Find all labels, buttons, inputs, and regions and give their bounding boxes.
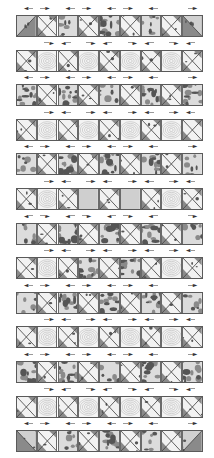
quilt-block-hourglass <box>161 223 182 245</box>
quilt-block-swirl <box>161 119 182 141</box>
arrow-left-icon: ◄ <box>101 39 113 47</box>
quilt-row-2 <box>16 50 203 72</box>
quilt-block-print <box>16 292 37 314</box>
arrow-left-icon: ◄ <box>143 108 155 116</box>
quilt-block-print <box>182 223 203 245</box>
arrow-left-icon: ◄ <box>185 315 197 323</box>
quilt-block-swirl <box>37 50 58 72</box>
arrow-right-icon: ► <box>168 177 180 185</box>
arrow-right-icon: ► <box>81 142 93 150</box>
arrow-left-icon: ◄ <box>60 108 72 116</box>
arrow-right-icon: ► <box>81 4 93 12</box>
quilt-block-solid <box>120 188 141 210</box>
arrow-right-icon: ► <box>122 4 134 12</box>
arrow-right-icon: ► <box>85 177 97 185</box>
arrow-left-icon: ◄ <box>101 177 113 185</box>
arrow-left-icon: ◄ <box>143 315 155 323</box>
arrow-left-icon: ◄ <box>22 281 34 289</box>
arrow-right-icon: ► <box>43 39 55 47</box>
quilt-block-print-dark <box>99 15 120 37</box>
quilt-block-corner-right-bottom <box>182 430 203 452</box>
arrow-left-icon: ◄ <box>185 246 197 254</box>
arrow-right-icon: ► <box>85 315 97 323</box>
arrow-left-icon: ◄ <box>147 73 159 81</box>
arrow-right-icon: ► <box>187 142 199 150</box>
quilt-block-print <box>99 361 120 383</box>
quilt-block-swirl <box>37 119 58 141</box>
quilt-block-print-dark <box>58 84 79 106</box>
arrow-right-icon: ► <box>85 246 97 254</box>
quilt-block-hourglass <box>120 153 141 175</box>
quilt-block-print <box>141 15 162 37</box>
arrow-left-icon: ◄ <box>22 419 34 427</box>
pressing-arrows-row-9: ◄►◄►◄►◄► <box>16 281 203 289</box>
quilt-block-hourglass <box>161 15 182 37</box>
quilt-block-print-dark <box>99 430 120 452</box>
quilt-block-swirl <box>78 396 99 418</box>
quilt-block-print <box>182 153 203 175</box>
quilt-block-swirl <box>161 396 182 418</box>
quilt-block-hourglass <box>120 223 141 245</box>
quilt-block-hourglass <box>16 326 37 348</box>
quilt-block-print-dark <box>120 257 141 279</box>
arrow-right-icon: ► <box>187 4 199 12</box>
arrow-right-icon: ► <box>43 177 55 185</box>
arrow-right-icon: ► <box>126 315 138 323</box>
quilt-block-swirl <box>161 257 182 279</box>
quilt-block-hourglass <box>120 84 141 106</box>
quilt-row-5 <box>16 153 203 175</box>
quilt-row-10 <box>16 326 203 348</box>
quilt-block-print-dark <box>141 223 162 245</box>
arrow-left-icon: ◄ <box>101 315 113 323</box>
quilt-block-hourglass <box>99 396 120 418</box>
quilt-block-print <box>182 292 203 314</box>
pressing-arrows-row-6: ►◄►◄►◄►◄ <box>16 177 203 185</box>
arrow-right-icon: ► <box>168 315 180 323</box>
pressing-arrows-row-3: ◄►◄►◄►◄► <box>16 73 203 81</box>
quilt-block-hourglass <box>182 396 203 418</box>
arrow-left-icon: ◄ <box>22 73 34 81</box>
quilt-block-swirl <box>161 188 182 210</box>
quilt-row-4 <box>16 119 203 141</box>
quilt-block-print <box>58 430 79 452</box>
arrow-right-icon: ► <box>81 281 93 289</box>
arrow-right-icon: ► <box>43 385 55 393</box>
quilt-block-print <box>16 223 37 245</box>
arrow-left-icon: ◄ <box>185 177 197 185</box>
quilt-block-hourglass <box>161 292 182 314</box>
quilt-block-hourglass <box>141 396 162 418</box>
quilt-block-hourglass <box>120 430 141 452</box>
arrow-left-icon: ◄ <box>185 108 197 116</box>
quilt-block-print-dark <box>141 84 162 106</box>
quilt-block-print-dark <box>99 292 120 314</box>
pressing-arrows-row-4: ►◄►◄►◄►◄ <box>16 108 203 116</box>
quilt-block-swirl <box>120 119 141 141</box>
quilt-block-hourglass <box>16 119 37 141</box>
arrow-right-icon: ► <box>126 246 138 254</box>
quilt-block-hourglass <box>37 223 58 245</box>
pressing-arrows-row-2: ►◄►◄►◄►◄ <box>16 39 203 47</box>
quilt-block-hourglass <box>141 326 162 348</box>
quilt-block-swirl <box>161 326 182 348</box>
quilt-block-hourglass <box>182 326 203 348</box>
quilt-block-hourglass <box>182 257 203 279</box>
arrow-right-icon: ► <box>122 212 134 220</box>
quilt-block-swirl <box>78 119 99 141</box>
arrow-left-icon: ◄ <box>147 4 159 12</box>
arrow-right-icon: ► <box>126 108 138 116</box>
arrow-left-icon: ◄ <box>64 4 76 12</box>
pressing-arrows-row-7: ◄►◄►◄►◄► <box>16 212 203 220</box>
arrow-left-icon: ◄ <box>64 281 76 289</box>
pressing-arrows-row-12: ►◄►◄►◄►◄ <box>16 385 203 393</box>
quilt-block-hourglass <box>182 188 203 210</box>
quilt-row-3 <box>16 84 203 106</box>
quilt-block-hourglass <box>58 257 79 279</box>
arrow-left-icon: ◄ <box>101 246 113 254</box>
quilt-block-print-dark <box>141 361 162 383</box>
quilt-block-print-dark <box>58 361 79 383</box>
quilt-block-print-dark <box>182 84 203 106</box>
arrow-right-icon: ► <box>43 246 55 254</box>
arrow-right-icon: ► <box>168 246 180 254</box>
arrow-left-icon: ◄ <box>22 4 34 12</box>
quilt-block-print <box>58 15 79 37</box>
